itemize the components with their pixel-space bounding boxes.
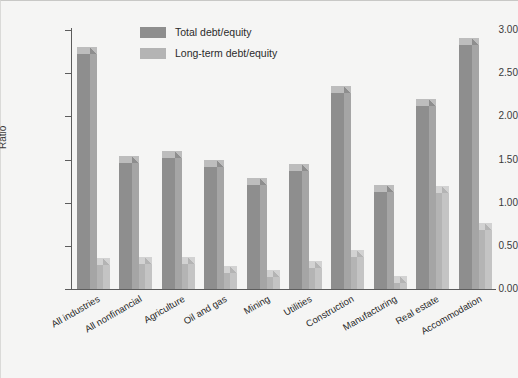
bar-front-face: [204, 167, 217, 289]
legend-label: Total debt/equity: [175, 26, 251, 38]
legend-swatch-icon: [140, 48, 166, 59]
legend-item-total-debt-equity: Total debt/equity: [140, 23, 277, 41]
bar-total-debt-equity: [162, 158, 175, 289]
bar-corner-cap: [357, 250, 364, 257]
bar-total-debt-equity: [77, 54, 90, 289]
bar-group: [416, 30, 458, 289]
bar-corner-cap: [429, 99, 436, 106]
legend-item-longterm-debt-equity: Long-term debt/equity: [140, 44, 277, 62]
bar-total-debt-equity: [459, 45, 472, 289]
bar-top-face: [331, 86, 344, 93]
bar-corner-cap: [230, 266, 237, 273]
bar-corner-cap: [344, 86, 351, 93]
bar-group: [374, 30, 416, 289]
legend-label: Long-term debt/equity: [175, 47, 277, 59]
bar-corner-cap: [315, 261, 322, 268]
bar-front-face: [459, 45, 472, 289]
bar-front-face: [162, 158, 175, 289]
bar-side-face: [260, 185, 267, 289]
bar-front-face: [247, 185, 260, 289]
bar-front-face: [416, 106, 429, 289]
bar-total-debt-equity: [416, 106, 429, 289]
bar-side-face: [273, 277, 280, 289]
bar-total-debt-equity: [247, 185, 260, 289]
bar-total-debt-equity: [331, 93, 344, 289]
bar-side-face: [230, 273, 237, 289]
bar-side-face: [344, 93, 351, 289]
chart-legend: Total debt/equity Long-term debt/equity: [140, 23, 277, 65]
bar-corner-cap: [472, 38, 479, 45]
y-axis-label: Ratio: [0, 126, 8, 149]
bar-side-face: [132, 163, 139, 289]
bar-group: [162, 30, 204, 289]
bar-front-face: [331, 93, 344, 289]
bar-front-face: [77, 54, 90, 289]
bar-side-face: [429, 106, 436, 289]
bar-top-face: [289, 164, 302, 171]
bar-corner-cap: [442, 186, 449, 193]
bar-side-face: [217, 167, 224, 289]
bar-top-face: [162, 151, 175, 158]
bar-total-debt-equity: [204, 167, 217, 289]
x-tick-label: Utilities: [281, 293, 313, 318]
bar-top-face: [374, 185, 387, 192]
bar-top-face: [247, 178, 260, 185]
bar-corner-cap: [387, 185, 394, 192]
bar-front-face: [119, 163, 132, 289]
bar-corner-cap: [400, 276, 407, 283]
bar-corner-cap: [485, 223, 492, 230]
bar-corner-cap: [188, 257, 195, 264]
bar-side-face: [472, 45, 479, 289]
bar-side-face: [442, 193, 449, 289]
bar-top-face: [119, 156, 132, 163]
bar-group: [77, 30, 119, 289]
bar-total-debt-equity: [119, 163, 132, 289]
bar-side-face: [315, 268, 322, 289]
bar-front-face: [289, 171, 302, 289]
bar-corner-cap: [175, 151, 182, 158]
x-tick-label: Mining: [241, 293, 271, 317]
plot-area: [71, 30, 495, 289]
bar-total-debt-equity: [289, 171, 302, 289]
x-tick-label: Oil and gas: [182, 293, 229, 327]
x-axis-line: [71, 289, 496, 290]
bar-side-face: [357, 257, 364, 289]
bar-total-debt-equity: [374, 192, 387, 289]
bar-top-face: [416, 99, 429, 106]
bar-side-face: [175, 158, 182, 289]
bar-front-face: [374, 192, 387, 289]
bar-side-face: [90, 54, 97, 289]
bar-group: [204, 30, 246, 289]
bar-group: [289, 30, 331, 289]
bar-top-face: [459, 38, 472, 45]
bar-side-face: [400, 283, 407, 289]
bar-group: [459, 30, 501, 289]
legend-swatch-icon: [140, 27, 166, 38]
bar-corner-cap: [260, 178, 267, 185]
bar-corner-cap: [302, 164, 309, 171]
bar-corner-cap: [273, 270, 280, 277]
bar-side-face: [103, 265, 110, 289]
x-tick-label: Agriculture: [141, 293, 186, 325]
bar-corner-cap: [145, 257, 152, 264]
y-tick-mark: [65, 289, 71, 290]
bar-group: [247, 30, 289, 289]
bar-side-face: [145, 264, 152, 289]
bar-top-face: [204, 160, 217, 167]
bar-top-face: [77, 47, 90, 54]
bar-side-face: [387, 192, 394, 289]
chart-figure: Ratio 0.000.501.001.502.002.503.00 All i…: [0, 0, 518, 378]
bar-group: [119, 30, 161, 289]
bar-side-face: [188, 264, 195, 289]
bar-side-face: [302, 171, 309, 289]
bar-corner-cap: [103, 258, 110, 265]
bar-group: [331, 30, 373, 289]
bar-side-face: [485, 230, 492, 289]
bar-corner-cap: [132, 156, 139, 163]
bar-corner-cap: [217, 160, 224, 167]
bar-corner-cap: [90, 47, 97, 54]
